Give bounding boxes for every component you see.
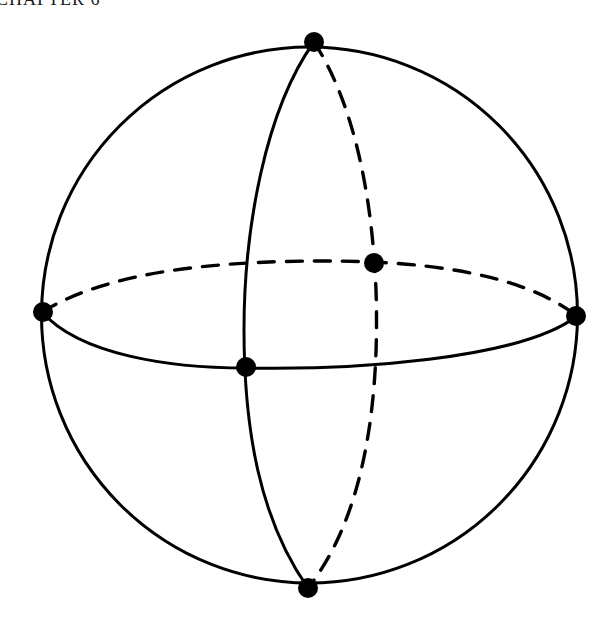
meridian-back-dashed bbox=[308, 42, 377, 588]
point-equator-right bbox=[566, 306, 586, 326]
sphere-diagram bbox=[0, 0, 616, 628]
meridian-front-solid bbox=[244, 42, 314, 588]
point-equator-left bbox=[33, 302, 53, 322]
point-south-pole bbox=[298, 578, 318, 598]
equator-front-solid bbox=[42, 312, 577, 368]
point-front-intersection bbox=[236, 357, 256, 377]
point-north-pole bbox=[304, 32, 324, 52]
sphere-outline bbox=[42, 47, 578, 583]
point-back-intersection bbox=[364, 253, 384, 273]
equator-back-dashed bbox=[42, 261, 577, 316]
